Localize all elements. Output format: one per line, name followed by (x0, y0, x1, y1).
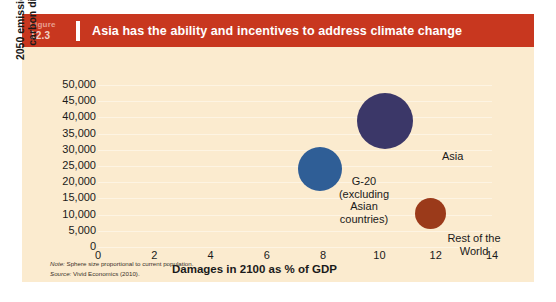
y-tick-label: 25,000 (38, 159, 96, 171)
plot-wrapper: 2050 emissions, megatonnes of carbon dio… (22, 47, 534, 282)
gridline (98, 134, 492, 135)
y-tick-label: 45,000 (38, 94, 96, 106)
source-prefix: Source: (50, 270, 71, 277)
source-text: Vivid Economics (2010). (71, 270, 139, 277)
gridline (98, 150, 492, 151)
x-tick-label: 4 (196, 249, 226, 261)
x-axis-title: Damages in 2100 as % of GDP (172, 263, 337, 275)
figure-root: Figure 12.3 Asia has the ability and inc… (0, 0, 556, 302)
bubble-label-rest-of-the-world: Rest of the World (447, 232, 500, 257)
bubble-g-20-excluding-asian-countries[interactable] (298, 147, 342, 191)
y-tick-label: 10,000 (38, 208, 96, 220)
y-tick-label: 50,000 (38, 78, 96, 90)
figure-source: Source: Vivid Economics (2010). (50, 270, 140, 278)
y-axis-title: 2050 emissions, megatonnes of carbon dio… (14, 0, 38, 69)
gridline (98, 117, 492, 118)
gridline (98, 101, 492, 102)
gridline (98, 182, 492, 183)
x-tick-label: 10 (364, 249, 394, 261)
gridline (98, 231, 492, 232)
figure-note: Note: Sphere size proportional to curren… (50, 260, 193, 268)
header-divider-rule (76, 21, 80, 41)
y-axis-tick-labels: 05,00010,00015,00020,00025,00030,00035,0… (32, 85, 96, 247)
figure-card: Figure 12.3 Asia has the ability and inc… (22, 14, 534, 282)
x-tick-label: 8 (308, 249, 338, 261)
x-tick-label: 12 (421, 249, 451, 261)
y-tick-label: 35,000 (38, 127, 96, 139)
y-tick-label: 40,000 (38, 110, 96, 122)
gridline (98, 166, 492, 167)
x-tick-label: 6 (252, 249, 282, 261)
y-tick-label: 20,000 (38, 175, 96, 187)
bubble-label-g-20-excluding-asian-countries: G-20 (excluding Asian countries) (339, 175, 389, 225)
bubble-label-asia: Asia (442, 150, 463, 163)
y-tick-label: 5,000 (38, 224, 96, 236)
y-tick-label: 15,000 (38, 191, 96, 203)
note-text: Sphere size proportional to current popu… (65, 260, 194, 267)
figure-title: Asia has the ability and incentives to a… (92, 24, 462, 38)
note-prefix: Note: (50, 260, 65, 267)
bubble-asia[interactable] (357, 93, 413, 149)
y-tick-label: 30,000 (38, 143, 96, 155)
plot-area (98, 85, 492, 247)
figure-header-band: Figure 12.3 Asia has the ability and inc… (22, 14, 534, 47)
bubble-rest-of-the-world[interactable] (415, 198, 446, 229)
gridline (98, 85, 492, 86)
